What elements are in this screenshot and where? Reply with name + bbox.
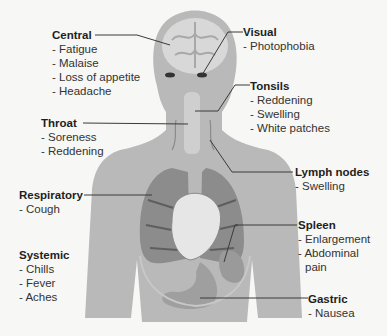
label-spleen-item: - Abdominal: [298, 246, 370, 260]
label-central-item: - Loss of appetite: [52, 70, 140, 84]
label-visual-title: Visual: [243, 25, 315, 39]
label-systemic-title: Systemic: [19, 248, 70, 262]
label-tonsils-title: Tonsils: [250, 79, 330, 93]
label-spleen-item: pain: [298, 260, 370, 274]
label-gastric: Gastric - Nausea: [308, 292, 355, 320]
left-eye: [165, 73, 175, 78]
label-lymph-nodes: Lymph nodes - Swelling: [295, 165, 369, 193]
label-lymph-nodes-item: - Swelling: [295, 179, 369, 193]
label-respiratory: Respiratory - Cough: [19, 188, 83, 216]
label-central: Central - Fatigue - Malaise - Loss of ap…: [52, 28, 140, 98]
label-lymph-nodes-title: Lymph nodes: [295, 165, 369, 179]
label-central-item: - Malaise: [52, 56, 140, 70]
label-systemic: Systemic - Chills - Fever - Aches: [19, 248, 70, 304]
label-tonsils-item: - Swelling: [250, 107, 330, 121]
label-tonsils-item: - Reddening: [250, 93, 330, 107]
label-systemic-item: - Aches: [19, 290, 70, 304]
label-tonsils: Tonsils - Reddening - Swelling - White p…: [250, 79, 330, 135]
label-central-title: Central: [52, 28, 140, 42]
label-throat-title: Throat: [41, 116, 104, 130]
label-respiratory-item: - Cough: [19, 202, 83, 216]
label-throat-item: - Soreness: [41, 130, 104, 144]
label-systemic-item: - Chills: [19, 262, 70, 276]
label-spleen-item: - Enlargement: [298, 232, 370, 246]
label-visual-item: - Photophobia: [243, 39, 315, 53]
label-central-item: - Headache: [52, 84, 140, 98]
label-visual: Visual - Photophobia: [243, 25, 315, 53]
symptom-diagram: Central - Fatigue - Malaise - Loss of ap…: [0, 0, 387, 336]
label-spleen: Spleen - Enlargement - Abdominal pain: [298, 218, 370, 274]
label-gastric-item: - Nausea: [308, 306, 355, 320]
label-gastric-title: Gastric: [308, 292, 355, 306]
label-central-item: - Fatigue: [52, 42, 140, 56]
label-throat: Throat - Soreness - Reddening: [41, 116, 104, 158]
label-tonsils-item: - White patches: [250, 121, 330, 135]
label-systemic-item: - Fever: [19, 276, 70, 290]
label-throat-item: - Reddening: [41, 144, 104, 158]
trachea: [184, 92, 200, 154]
label-respiratory-title: Respiratory: [19, 188, 83, 202]
label-spleen-title: Spleen: [298, 218, 370, 232]
